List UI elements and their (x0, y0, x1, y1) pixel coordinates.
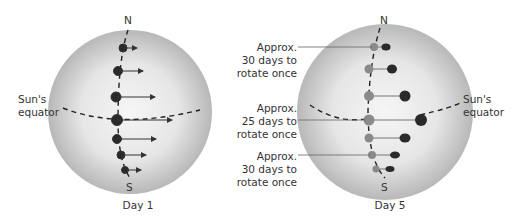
equator-line2: equator (18, 106, 59, 119)
equator-label-day1: Sun's equator (18, 93, 59, 119)
equator-line1: Sun's (18, 93, 59, 106)
sphere-day5 (297, 24, 473, 200)
ann-line: Approx. (230, 41, 297, 54)
annotation-south: Approx. 30 days to rotate once (230, 150, 297, 189)
ann-line: 25 days to (230, 115, 297, 128)
ann-line: rotate once (230, 128, 297, 141)
sphere-day1 (48, 30, 212, 194)
north-label-day5: N (380, 14, 388, 27)
ann-line: rotate once (230, 176, 297, 189)
equator-line1: Sun's (463, 93, 504, 106)
annotation-equator: Approx. 25 days to rotate once (230, 102, 297, 141)
caption-day1: Day 1 (118, 199, 158, 212)
ann-line: Approx. (230, 150, 297, 163)
caption-day5: Day 5 (370, 199, 410, 212)
north-label-day1: N (124, 14, 132, 27)
ann-line: 30 days to (230, 54, 297, 67)
equator-line2: equator (463, 106, 504, 119)
south-label-day5: S (381, 181, 388, 194)
south-label-day1: S (126, 181, 133, 194)
ann-line: 30 days to (230, 163, 297, 176)
annotation-north: Approx. 30 days to rotate once (230, 41, 297, 80)
ann-line: Approx. (230, 102, 297, 115)
ann-line: rotate once (230, 67, 297, 80)
equator-label-day5: Sun's equator (463, 93, 504, 119)
